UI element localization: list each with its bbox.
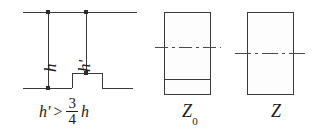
section-z0-outline xyxy=(164,12,210,94)
fraction-three-quarters: 3 4 xyxy=(66,96,78,128)
node-dot-baseline xyxy=(46,86,50,90)
wall-elevation-panel: h h' h' > 3 4 h xyxy=(0,0,155,130)
height-label-h-prime: h' xyxy=(76,60,93,72)
section-z0-panel: Z0 xyxy=(155,0,235,130)
height-label-h: h xyxy=(42,64,59,73)
expression-left-symbol: h' xyxy=(38,103,51,121)
node-dot-top-left xyxy=(46,10,50,14)
node-markers xyxy=(46,10,88,90)
expression-right-symbol: h xyxy=(80,103,90,121)
section-z0-caption: Z0 xyxy=(182,101,198,124)
section-z-panel: Z xyxy=(235,0,324,130)
expression-operator: > xyxy=(51,103,64,121)
inequality-expression: h' > 3 4 h xyxy=(38,96,90,128)
section-z0-caption-symbol: Z xyxy=(182,101,192,121)
section-z-caption: Z xyxy=(271,101,281,124)
figure-canvas: h h' h' > 3 4 h Z0 Z xyxy=(0,0,324,130)
fraction-numerator: 3 xyxy=(66,96,78,111)
section-z0-caption-subscript: 0 xyxy=(192,115,198,127)
section-z-caption-symbol: Z xyxy=(271,101,281,121)
fraction-denominator: 4 xyxy=(66,112,78,127)
node-dot-top-right xyxy=(84,10,88,14)
